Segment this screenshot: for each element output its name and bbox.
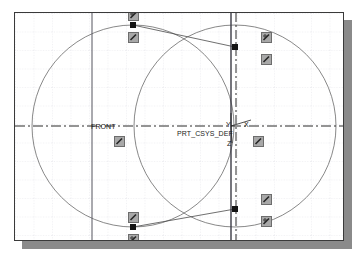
- tangent-constraint-bottom-right-lower[interactable]: [261, 216, 272, 227]
- sketch-vertex-bottom-right[interactable]: [232, 206, 238, 212]
- tangent-constraint-bottom-left-lower[interactable]: [128, 234, 139, 241]
- tangent-icon: [262, 217, 271, 226]
- sketch-vertex-top-left[interactable]: [130, 22, 136, 28]
- drawing-canvas[interactable]: FRONT PRT_CSYS_DEF Y X Z: [14, 12, 344, 241]
- coordinate-system-label: PRT_CSYS_DEF: [177, 130, 233, 137]
- upper-tangent-line: [133, 25, 235, 47]
- datum-plane-label: FRONT: [91, 123, 116, 130]
- geometry-layer: [15, 13, 343, 240]
- tangent-constraint-top-left-lower[interactable]: [128, 32, 139, 43]
- tangent-constraint-top-right-lower[interactable]: [261, 54, 272, 65]
- tangent-icon: [129, 213, 138, 222]
- tangent-constraint-top-right-upper[interactable]: [261, 32, 272, 43]
- tangent-icon: [262, 55, 271, 64]
- tangent-constraint-bottom-left-upper[interactable]: [128, 212, 139, 223]
- axis-label-x: X: [244, 121, 249, 128]
- axis-label-z: Z: [227, 140, 231, 147]
- sketch-vertex-top-right[interactable]: [232, 44, 238, 50]
- sketch-viewport: FRONT PRT_CSYS_DEF Y X Z: [0, 0, 364, 266]
- lower-tangent-line: [133, 209, 235, 227]
- tangent-constraint-top-left-upper[interactable]: [128, 12, 139, 21]
- tangent-icon: [129, 33, 138, 42]
- sketch-vertex-bottom-left[interactable]: [130, 224, 136, 230]
- tangent-constraint-bottom-right-upper[interactable]: [261, 194, 272, 205]
- tangent-constraint-center-right[interactable]: [253, 136, 264, 147]
- tangent-icon: [262, 195, 271, 204]
- tangent-constraint-center-left[interactable]: [114, 136, 125, 147]
- tangent-icon: [262, 33, 271, 42]
- tangent-icon: [129, 235, 138, 241]
- tangent-icon: [254, 137, 263, 146]
- tangent-icon: [129, 12, 138, 20]
- tangent-icon: [115, 137, 124, 146]
- axis-label-y: Y: [226, 121, 231, 128]
